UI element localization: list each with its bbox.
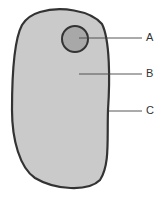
cell-body: [12, 9, 109, 188]
label-c: C: [146, 105, 154, 116]
label-b: B: [146, 68, 153, 79]
nucleus: [62, 26, 88, 52]
label-a: A: [146, 32, 153, 43]
cell-diagram: [0, 0, 160, 198]
